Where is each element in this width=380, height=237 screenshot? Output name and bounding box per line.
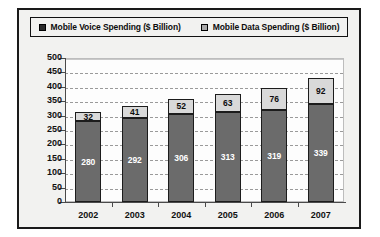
x-axis-tick-label: 2006: [264, 210, 284, 220]
x-axis-tick-label: 2003: [125, 210, 145, 220]
bar-segment-data[interactable]: 63: [215, 94, 241, 112]
y-axis-tick-label: 250: [22, 124, 62, 134]
x-axis-tick-label: 2002: [78, 210, 98, 220]
legend-square-icon: [39, 24, 46, 31]
x-axis-tick: [251, 202, 252, 207]
x-axis-tick: [298, 202, 299, 207]
gridline: [65, 102, 343, 103]
bar-segment-data[interactable]: 32: [75, 112, 101, 121]
x-axis-tick-label: 2004: [171, 210, 191, 220]
legend-square-icon: [201, 24, 208, 31]
y-axis-line: [65, 58, 66, 203]
bar-group[interactable]: 29241: [122, 58, 148, 202]
plot-wrapper: 5004504003503002502001501005002803220022…: [19, 40, 359, 228]
bar-group[interactable]: 31363: [215, 58, 241, 202]
x-axis-tick: [112, 202, 113, 207]
bar-group[interactable]: 28032: [75, 58, 101, 202]
y-axis-tick-label: 200: [22, 138, 62, 148]
x-axis-tick: [158, 202, 159, 207]
x-axis-line: [59, 202, 346, 203]
x-axis-tick-label: 2007: [311, 210, 331, 220]
bar-segment-data[interactable]: 52: [168, 99, 194, 114]
y-axis-tick-label: 450: [22, 66, 62, 76]
y-axis-tick-label: 0: [22, 196, 62, 206]
y-axis-tick-label: 50: [22, 182, 62, 192]
gridline: [65, 59, 343, 60]
gridline: [65, 160, 343, 161]
gridline: [65, 174, 343, 175]
chart-legend: Mobile Voice Spending ($ Billion) Mobile…: [30, 17, 348, 37]
bar-segment-voice[interactable]: 319: [261, 110, 287, 202]
bar-segment-data[interactable]: 76: [261, 88, 287, 110]
y-axis-tick-label: 100: [22, 167, 62, 177]
y-axis-tick-label: 150: [22, 153, 62, 163]
bar-segment-data[interactable]: 41: [122, 106, 148, 118]
bar-segment-voice[interactable]: 292: [122, 118, 148, 202]
bar-group[interactable]: 31976: [261, 58, 287, 202]
y-axis-tick-label: 400: [22, 81, 62, 91]
gridline: [65, 88, 343, 89]
y-axis-tick-label: 350: [22, 95, 62, 105]
gridline: [65, 189, 343, 190]
legend-item-data: Mobile Data Spending ($ Billion): [201, 22, 340, 32]
bar-segment-voice[interactable]: 313: [215, 112, 241, 202]
gridline: [65, 145, 343, 146]
legend-item-voice: Mobile Voice Spending ($ Billion): [39, 22, 181, 32]
x-axis-tick-label: 2005: [218, 210, 238, 220]
bar-segment-voice[interactable]: 306: [168, 114, 194, 202]
bar-group[interactable]: 30652: [168, 58, 194, 202]
chart-container: Mobile Voice Spending ($ Billion) Mobile…: [17, 8, 361, 229]
plot-area: [65, 58, 344, 202]
bar-segment-voice[interactable]: 280: [75, 121, 101, 202]
y-axis-tick-label: 300: [22, 110, 62, 120]
bar-segment-data[interactable]: 92: [308, 78, 334, 104]
legend-label-voice: Mobile Voice Spending ($ Billion): [51, 22, 181, 32]
gridline: [65, 117, 343, 118]
bar-group[interactable]: 33992: [308, 58, 334, 202]
legend-label-data: Mobile Data Spending ($ Billion): [213, 22, 340, 32]
y-axis-tick-label: 500: [22, 52, 62, 62]
gridline: [65, 131, 343, 132]
bar-segment-voice[interactable]: 339: [308, 104, 334, 202]
x-axis-tick: [205, 202, 206, 207]
gridline: [65, 73, 343, 74]
